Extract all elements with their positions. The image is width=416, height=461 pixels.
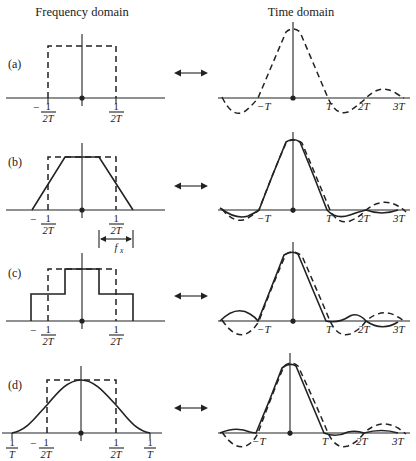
row-label-a: (a) <box>8 57 21 71</box>
svg-text:2T: 2T <box>110 113 122 124</box>
svg-text:1: 1 <box>147 437 152 448</box>
svg-text:T: T <box>322 435 329 447</box>
header-frequency-domain: Frequency domain <box>35 5 129 19</box>
row-label-d: (d) <box>8 378 22 392</box>
svg-text:2T: 2T <box>110 449 122 460</box>
panel-d-frequency: (d) 1 T − 1 2T 1 2T 1 T <box>2 366 162 460</box>
svg-text:2T: 2T <box>356 435 369 447</box>
svg-text:3T: 3T <box>392 212 406 224</box>
double-arrow-icon <box>174 70 208 77</box>
svg-text:T: T <box>9 449 16 460</box>
svg-text:−T: −T <box>257 100 271 112</box>
shaped-pulse <box>220 140 398 218</box>
svg-text:1: 1 <box>113 437 118 448</box>
svg-text:2T: 2T <box>358 212 371 224</box>
nyquist-pulse-diagram: Frequency domain Time domain (a) − 1 2T … <box>0 0 416 461</box>
svg-text:−: − <box>30 437 36 449</box>
sinc-pulse <box>222 29 404 113</box>
svg-text:2T: 2T <box>358 100 371 112</box>
svg-text:3T: 3T <box>392 100 406 112</box>
double-arrow-icon <box>174 183 208 190</box>
svg-text:3T: 3T <box>392 323 406 335</box>
svg-text:−: − <box>30 324 36 336</box>
svg-text:−T: −T <box>252 435 266 447</box>
shaped-pulse <box>220 252 398 327</box>
svg-text:2T: 2T <box>42 113 54 124</box>
svg-text:−: − <box>33 101 39 113</box>
svg-text:1: 1 <box>113 101 118 112</box>
svg-text:−T: −T <box>257 212 271 224</box>
svg-text:1: 1 <box>43 437 48 448</box>
panel-b-time: −T T 2T 3T <box>218 132 410 224</box>
svg-text:1: 1 <box>9 437 14 448</box>
svg-text:T: T <box>326 100 333 112</box>
svg-text:−T: −T <box>257 323 271 335</box>
svg-text:T: T <box>326 323 333 335</box>
panel-a-frequency: (a) − 1 2T 1 2T <box>6 34 165 124</box>
svg-text:T: T <box>147 449 154 460</box>
svg-text:−: − <box>30 213 36 225</box>
svg-text:x: x <box>119 246 124 255</box>
panel-a-time: −T T 2T 3T <box>218 22 410 113</box>
svg-text:2T: 2T <box>110 336 122 347</box>
panel-c-frequency: (c) − 1 2T 1 2T <box>6 253 165 347</box>
row-label-c: (c) <box>8 266 21 280</box>
double-arrow-icon <box>174 293 208 300</box>
svg-text:1: 1 <box>113 213 118 224</box>
svg-text:3T: 3T <box>391 435 405 447</box>
header-time-domain: Time domain <box>268 5 335 19</box>
svg-text:f: f <box>115 242 120 253</box>
svg-text:2T: 2T <box>110 225 122 236</box>
svg-text:1: 1 <box>45 101 50 112</box>
svg-text:T: T <box>326 212 333 224</box>
svg-text:1: 1 <box>45 213 50 224</box>
panel-b-frequency: (b) − 1 2T 1 2T f x <box>6 143 165 255</box>
svg-text:1: 1 <box>45 324 50 335</box>
svg-text:2T: 2T <box>42 336 54 347</box>
panel-c-time: −T T 2T 3T <box>218 242 410 335</box>
raised-cosine-pulse <box>220 364 398 435</box>
double-arrow-icon <box>174 405 208 412</box>
svg-text:2T: 2T <box>42 225 54 236</box>
row-label-b: (b) <box>8 155 22 169</box>
panel-d-time: −T T 2T 3T <box>218 353 410 447</box>
svg-text:1: 1 <box>113 324 118 335</box>
svg-text:2T: 2T <box>358 323 371 335</box>
svg-text:2T: 2T <box>40 449 52 460</box>
